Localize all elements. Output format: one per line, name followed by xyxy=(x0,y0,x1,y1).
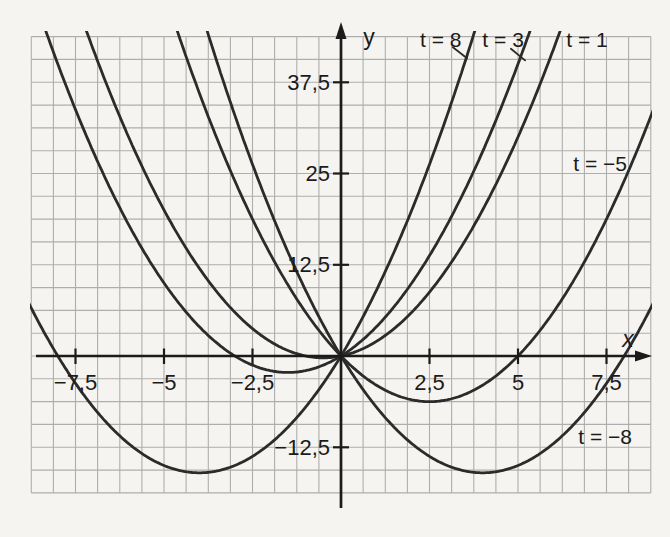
y-axis-letter: y xyxy=(363,24,375,50)
scanned-graph-page: −7,5−5−2,52,557,537,52512,5−12,5t = 8t =… xyxy=(0,0,670,537)
x-tick-label: 5 xyxy=(512,370,524,395)
curve-label-t-3: t = 3 xyxy=(482,28,523,51)
x-tick-label: −5 xyxy=(151,370,176,395)
x-tick-label: −2,5 xyxy=(231,370,274,395)
curve-t-3 xyxy=(26,0,566,372)
x-tick-label: −7,5 xyxy=(54,370,97,395)
y-tick-label: 25 xyxy=(306,161,330,186)
curve-label-t-1: t = 1 xyxy=(566,28,607,51)
parabola-family-chart: −7,5−5−2,52,557,537,52512,5−12,5t = 8t =… xyxy=(0,0,670,537)
y-tick-label: 37,5 xyxy=(287,70,330,95)
curve-label-t-minus-8: t = −8 xyxy=(578,425,632,448)
x-axis-letter: x xyxy=(621,326,635,352)
y-axis-arrowhead-icon xyxy=(336,22,347,39)
y-tick-label: 12,5 xyxy=(287,252,330,277)
curve-t-minus-5 xyxy=(143,0,656,402)
curve-label-t-minus-5: t = −5 xyxy=(573,152,627,175)
x-axis-arrowhead-icon xyxy=(635,351,652,362)
curve-label-t-8: t = 8 xyxy=(420,28,461,51)
y-tick-label: −12,5 xyxy=(274,435,330,460)
x-tick-label: 2,5 xyxy=(414,370,445,395)
x-tick-label: 7,5 xyxy=(591,370,622,395)
